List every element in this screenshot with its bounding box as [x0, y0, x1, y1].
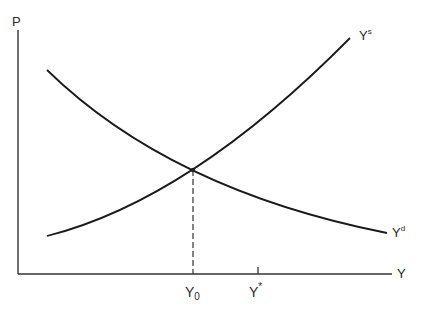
diagram-canvas: P Y Ys Yd Y0 Y*: [0, 0, 422, 309]
output-axis-label: Y: [397, 266, 406, 281]
equilibrium-output-label: Y0: [185, 284, 200, 302]
demand-curve-label: Yd: [392, 224, 405, 240]
supply-curve: [47, 38, 350, 236]
full-employment-output-label: Y*: [249, 281, 262, 300]
demand-curve: [47, 70, 387, 233]
supply-curve-label: Ys: [359, 27, 372, 43]
price-axis-label: P: [12, 14, 21, 29]
